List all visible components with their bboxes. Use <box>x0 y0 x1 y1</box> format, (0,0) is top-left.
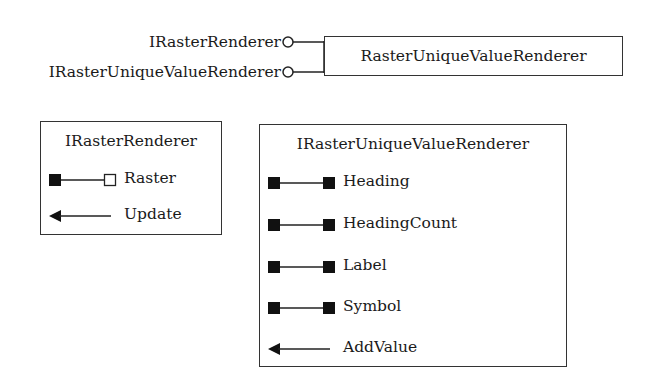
lollipop-icon <box>283 67 293 77</box>
coclass-title: RasterUniqueValueRenderer <box>325 49 622 65</box>
property-rw-icon <box>268 257 348 277</box>
method-arrow-icon <box>268 339 348 359</box>
member-row-label: Label <box>268 257 558 277</box>
interface-box-irasteruniquevaluerenderer: IRasterUniqueValueRenderer Heading Headi… <box>259 124 567 367</box>
member-row-addvalue: AddValue <box>268 339 558 359</box>
member-name: AddValue <box>343 340 417 356</box>
property-rw-icon <box>268 173 348 193</box>
member-name: Heading <box>343 174 410 190</box>
member-name: Update <box>124 207 182 223</box>
member-name: Label <box>343 258 387 274</box>
interface-title: IRasterRenderer <box>41 134 221 150</box>
member-row-symbol: Symbol <box>268 298 558 318</box>
interface-label-irasteruniquevaluerenderer: IRasterUniqueValueRenderer <box>49 65 281 81</box>
property-put-ref-icon <box>49 170 129 190</box>
member-row-update: Update <box>49 206 219 226</box>
interface-label-irasterrenderer: IRasterRenderer <box>149 35 281 51</box>
member-name: Symbol <box>343 299 401 315</box>
interface-title: IRasterUniqueValueRenderer <box>260 137 566 153</box>
interface-box-irasterrenderer: IRasterRenderer Raster Update <box>40 121 222 235</box>
lollipop-icon <box>283 37 293 47</box>
member-name: HeadingCount <box>343 216 457 232</box>
coclass-box: RasterUniqueValueRenderer <box>324 36 623 76</box>
property-rw-icon <box>268 215 348 235</box>
member-row-headingcount: HeadingCount <box>268 215 558 235</box>
member-row-raster: Raster <box>49 170 219 190</box>
member-name: Raster <box>124 171 176 187</box>
member-row-heading: Heading <box>268 173 558 193</box>
method-arrow-icon <box>49 206 129 226</box>
property-rw-icon <box>268 298 348 318</box>
